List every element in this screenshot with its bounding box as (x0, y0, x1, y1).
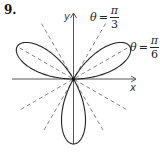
fraction: π 6 (150, 35, 159, 60)
fraction-denominator: 3 (111, 18, 118, 30)
fraction-numerator: π (150, 35, 159, 48)
problem-number: 9. (4, 3, 17, 17)
theta-symbol: θ (90, 11, 97, 24)
fraction: π 3 (110, 5, 119, 30)
polar-graph-figure: 9. y x θ = π 3 θ = π 6 (0, 0, 160, 154)
equals-sign: = (99, 11, 108, 24)
angle-label-pi-over-3: θ = π 3 (90, 5, 119, 30)
fraction-numerator: π (110, 5, 119, 18)
origin-point (72, 77, 75, 80)
fraction-denominator: 6 (151, 48, 158, 60)
theta-symbol: θ (130, 41, 137, 54)
polar-plot (0, 0, 160, 154)
x-axis-label: x (130, 82, 136, 93)
angle-label-pi-over-6: θ = π 6 (130, 35, 159, 60)
equals-sign: = (139, 41, 148, 54)
y-axis-label: y (64, 11, 70, 22)
